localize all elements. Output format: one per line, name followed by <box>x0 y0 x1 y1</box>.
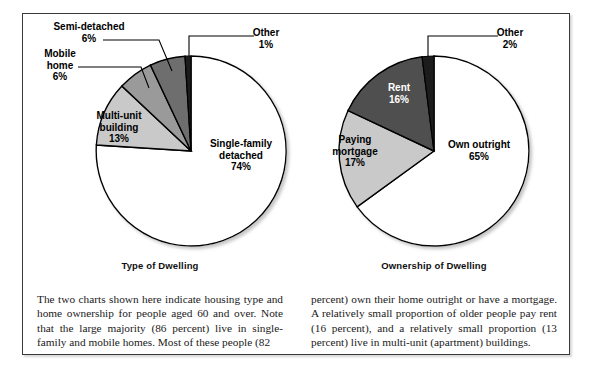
pie-label-own-outright: Own outright 65% <box>431 139 527 162</box>
chart-title-ownership-of-dwelling: Ownership of Dwelling <box>297 260 571 271</box>
caption-text-left: The two charts shown here indicate housi… <box>37 292 283 350</box>
pie-label-mobile-home: Mobile home 6% <box>15 48 105 83</box>
figure-frame: Semi-detached 6% Mobile home 6% Multi-un… <box>22 13 570 355</box>
chart-type-of-dwelling: Semi-detached 6% Mobile home 6% Multi-un… <box>23 14 297 286</box>
pie-label-rent: Rent 16% <box>363 82 435 105</box>
pie-label-semi-detached: Semi-detached 6% <box>27 21 151 44</box>
charts-area: Semi-detached 6% Mobile home 6% Multi-un… <box>23 14 571 286</box>
pie-label-other: Other 1% <box>239 27 293 50</box>
pie-label-paying-mortgage: Paying mortgage 17% <box>313 134 397 169</box>
pie-label-single-family-detached: Single-family detached 74% <box>191 138 291 173</box>
caption-block: The two charts shown here indicate housi… <box>23 286 571 356</box>
pie-label-multi-unit-building: Multi-unit building 13% <box>76 110 162 145</box>
caption-column-right: percent) own their home outright or have… <box>311 292 557 350</box>
caption-text-right: percent) own their home outright or have… <box>311 292 557 350</box>
chart-title-type-of-dwelling: Type of Dwelling <box>23 260 297 271</box>
chart-ownership-of-dwelling: Other 2% Rent 16% Paying mortgage 17% Ow… <box>297 14 571 286</box>
caption-column-left: The two charts shown here indicate housi… <box>37 292 283 350</box>
pie-label-other: Other 2% <box>483 27 537 50</box>
